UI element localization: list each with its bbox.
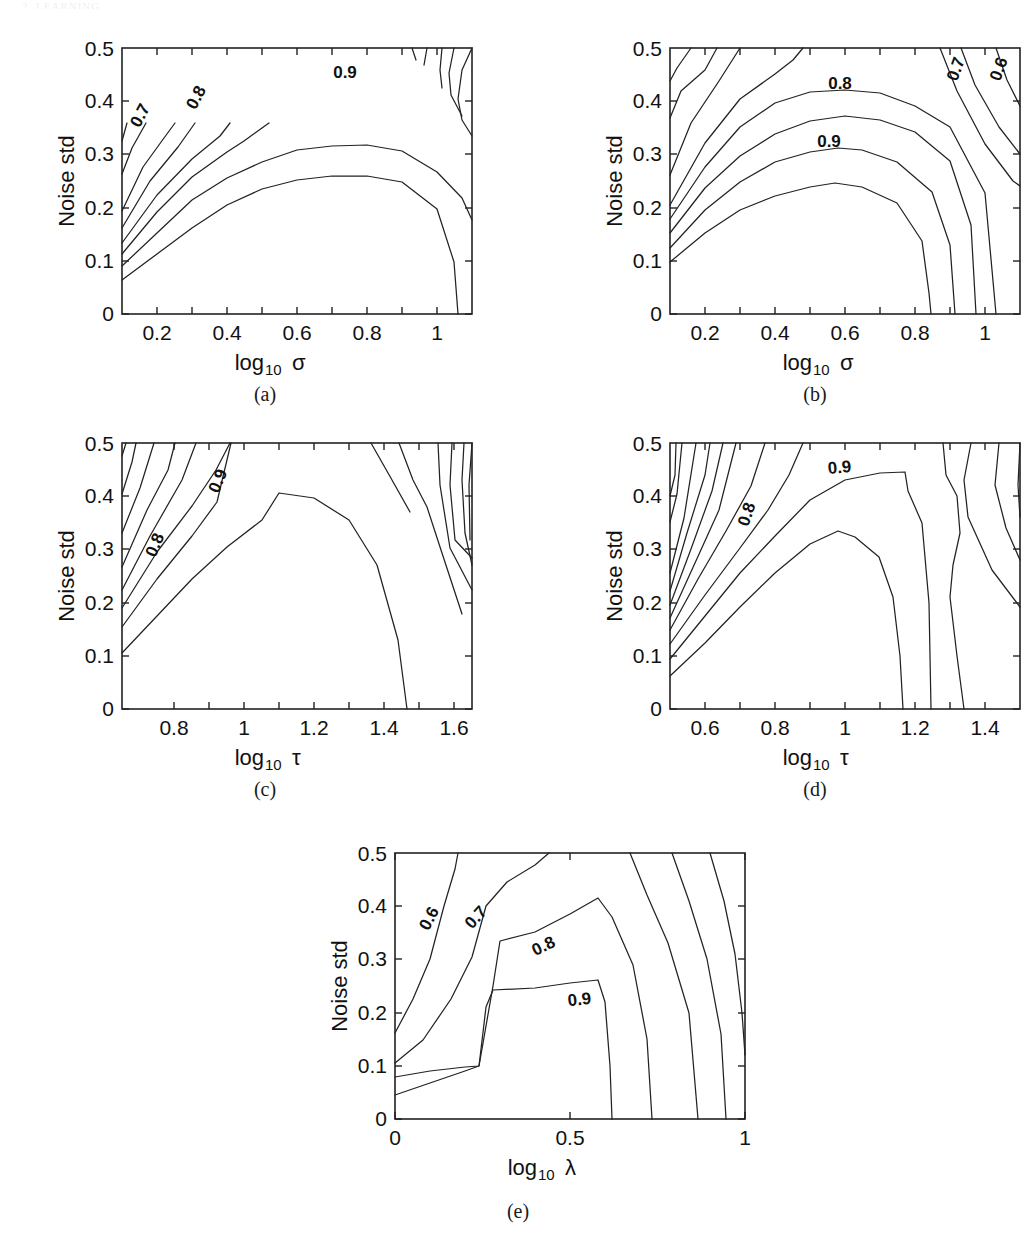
ytick-2: 0.2 (633, 196, 662, 219)
ytick-1: 0.1 (633, 249, 662, 272)
panel-a-ticks (122, 48, 472, 314)
ytick-1: 0.1 (358, 1054, 387, 1077)
xlabel-sub: 10 (265, 756, 282, 773)
xtick-1: 0.5 (555, 1126, 584, 1149)
panel-d-ylabel: Noise std (602, 530, 627, 622)
xtick-3: 1.4 (369, 716, 399, 739)
contour-label-1: 0.9 (827, 457, 852, 478)
panel-e: 0 0.1 0.2 0.3 0.4 0.5 0 0.5 1 Noise std … (325, 825, 765, 1185)
ytick-5: 0.5 (633, 37, 662, 60)
ytick-3: 0.3 (358, 947, 387, 970)
panel-a-ylabel: Noise std (54, 135, 79, 227)
ytick-3: 0.3 (633, 142, 662, 165)
ytick-5: 0.5 (85, 432, 114, 455)
ytick-3: 0.3 (633, 537, 662, 560)
panel-b-ytick-labels: 0 0.1 0.2 0.3 0.4 0.5 (633, 37, 663, 325)
panel-d-axes: 0 0.1 0.2 0.3 0.4 0.5 0.6 0.8 1 1.2 1.4 … (602, 432, 1020, 773)
panel-e-ytick-labels: 0 0.1 0.2 0.3 0.4 0.5 (358, 842, 388, 1130)
xtick-4: 1 (431, 321, 443, 344)
panel-b: 0 0.1 0.2 0.3 0.4 0.5 0.2 0.4 0.6 0.8 1 … (600, 30, 1031, 380)
panel-d-xtick-labels: 0.6 0.8 1 1.2 1.4 (690, 716, 1000, 739)
contour-label-0: 0.8 (828, 74, 852, 93)
xlabel-symbol: τ (292, 745, 301, 770)
xtick-0: 0.8 (159, 716, 188, 739)
ytick-4: 0.4 (85, 89, 115, 112)
panel-b-contour-labels: 0.8 0.9 0.7 0.6 (817, 55, 1012, 151)
ytick-3: 0.3 (85, 142, 114, 165)
xtick-2: 1 (839, 716, 851, 739)
ytick-2: 0.2 (633, 591, 662, 614)
panel-b-ylabel: Noise std (602, 135, 627, 227)
ytick-2: 0.2 (85, 196, 114, 219)
xlabel-base: log (508, 1155, 537, 1180)
xtick-4: 1.6 (439, 716, 468, 739)
xtick-0: 0.2 (690, 321, 719, 344)
panel-c-ticks (122, 443, 472, 709)
ytick-5: 0.5 (633, 432, 662, 455)
contour-label-0: 0.7 (126, 101, 154, 131)
panel-c: 0 0.1 0.2 0.3 0.4 0.5 0.8 1 1.2 1.4 1.6 … (52, 425, 492, 775)
panel-a-axes: 0 0.1 0.2 0.3 0.4 0.5 0.2 0.4 0.6 0.8 1 … (54, 37, 472, 378)
xlabel-sub: 10 (538, 1166, 555, 1183)
panel-c-plot: 0 0.1 0.2 0.3 0.4 0.5 0.8 1 1.2 1.4 1.6 … (52, 425, 492, 775)
ytick-5: 0.5 (85, 37, 114, 60)
ytick-1: 0.1 (633, 644, 662, 667)
ytick-0: 0 (650, 302, 662, 325)
xlabel-sub: 10 (813, 756, 830, 773)
caption-c: (c) (245, 778, 285, 801)
xlabel-base: log (783, 745, 812, 770)
ytick-4: 0.4 (358, 894, 388, 917)
ytick-4: 0.4 (633, 89, 663, 112)
xtick-4: 1 (979, 321, 991, 344)
contour-label-3: 0.6 (986, 55, 1012, 84)
panel-d-ticks (670, 443, 1020, 709)
xtick-4: 1.4 (970, 716, 1000, 739)
panel-c-ylabel: Noise std (54, 530, 79, 622)
xlabel-symbol: λ (565, 1155, 576, 1180)
panel-d-xlabel: log 10 τ (783, 745, 849, 773)
contour-label-1: 0.9 (817, 132, 841, 151)
ytick-1: 0.1 (85, 249, 114, 272)
panel-b-xtick-labels: 0.2 0.4 0.6 0.8 1 (690, 321, 990, 344)
contour-label-2: 0.8 (529, 932, 559, 959)
contour-label-0: 0.8 (734, 500, 759, 528)
xlabel-sub: 10 (813, 361, 830, 378)
xtick-2: 0.6 (830, 321, 859, 344)
panel-a-axis-frame (122, 48, 472, 314)
panel-b-axes: 0 0.1 0.2 0.3 0.4 0.5 0.2 0.4 0.6 0.8 1 … (602, 37, 1020, 378)
panel-a-contours (122, 48, 472, 314)
xtick-2: 1.2 (299, 716, 328, 739)
xtick-3: 0.8 (900, 321, 929, 344)
xtick-1: 1 (238, 716, 250, 739)
xlabel-base: log (235, 745, 264, 770)
caption-a: (a) (245, 383, 285, 406)
panel-a-xlabel: log 10 σ (235, 350, 306, 378)
panel-d-plot: 0 0.1 0.2 0.3 0.4 0.5 0.6 0.8 1 1.2 1.4 … (600, 425, 1031, 775)
panel-d: 0 0.1 0.2 0.3 0.4 0.5 0.6 0.8 1 1.2 1.4 … (600, 425, 1031, 775)
xlabel-base: log (783, 350, 812, 375)
ytick-0: 0 (650, 697, 662, 720)
panel-d-contours (670, 443, 1020, 709)
panel-e-axes: 0 0.1 0.2 0.3 0.4 0.5 0 0.5 1 Noise std … (327, 842, 751, 1183)
panel-a-plot: 0 0.1 0.2 0.3 0.4 0.5 0.2 0.4 0.6 0.8 1 … (52, 30, 492, 380)
panel-e-xlabel: log 10 λ (508, 1155, 576, 1183)
ytick-4: 0.4 (85, 484, 115, 507)
panel-c-axis-frame (122, 443, 472, 709)
caption-b: (b) (795, 383, 835, 406)
xtick-0: 0 (389, 1126, 401, 1149)
panel-c-ytick-labels: 0 0.1 0.2 0.3 0.4 0.5 (85, 432, 115, 720)
panel-c-xlabel: log 10 τ (235, 745, 301, 773)
ytick-0: 0 (102, 302, 114, 325)
xtick-3: 1.2 (900, 716, 929, 739)
panel-b-xlabel: log 10 σ (783, 350, 854, 378)
xtick-2: 0.6 (282, 321, 311, 344)
contour-label-1: 0.9 (205, 466, 231, 495)
ytick-2: 0.2 (85, 591, 114, 614)
panel-b-plot: 0 0.1 0.2 0.3 0.4 0.5 0.2 0.4 0.6 0.8 1 … (600, 30, 1031, 380)
contour-label-2: 0.9 (333, 63, 357, 82)
xtick-3: 0.8 (352, 321, 381, 344)
figure-page: 2. LEARNING (0, 0, 1031, 1257)
caption-d: (d) (795, 778, 835, 801)
xtick-1: 0.4 (212, 321, 242, 344)
contour-label-0: 0.6 (415, 904, 443, 934)
